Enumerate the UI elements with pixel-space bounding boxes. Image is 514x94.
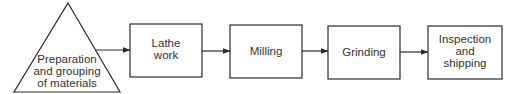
lathe-label-line-2: work <box>153 49 179 61</box>
milling-label: Milling <box>250 45 283 57</box>
start-label-line-2: and grouping <box>33 65 100 77</box>
inspection-label-line-1: Inspection <box>439 33 491 45</box>
process-flow-diagram: Preparation and grouping of materials La… <box>0 0 514 94</box>
step-node-grinding: Grinding <box>328 26 400 79</box>
step-node-lathe-work: Lathe work <box>130 24 202 77</box>
lathe-label-line-1: Lathe <box>152 37 181 49</box>
inspection-label-line-3: shipping <box>444 57 487 69</box>
step-node-milling: Milling <box>230 25 302 78</box>
inspection-label-line-2: and <box>455 45 474 57</box>
start-label-line-1: Preparation <box>37 53 96 65</box>
step-node-inspection-and-shipping: Inspection and shipping <box>428 26 502 79</box>
start-node-preparation: Preparation and grouping of materials <box>14 3 120 92</box>
grinding-label: Grinding <box>342 46 385 58</box>
start-label-line-3: of materials <box>37 77 97 89</box>
